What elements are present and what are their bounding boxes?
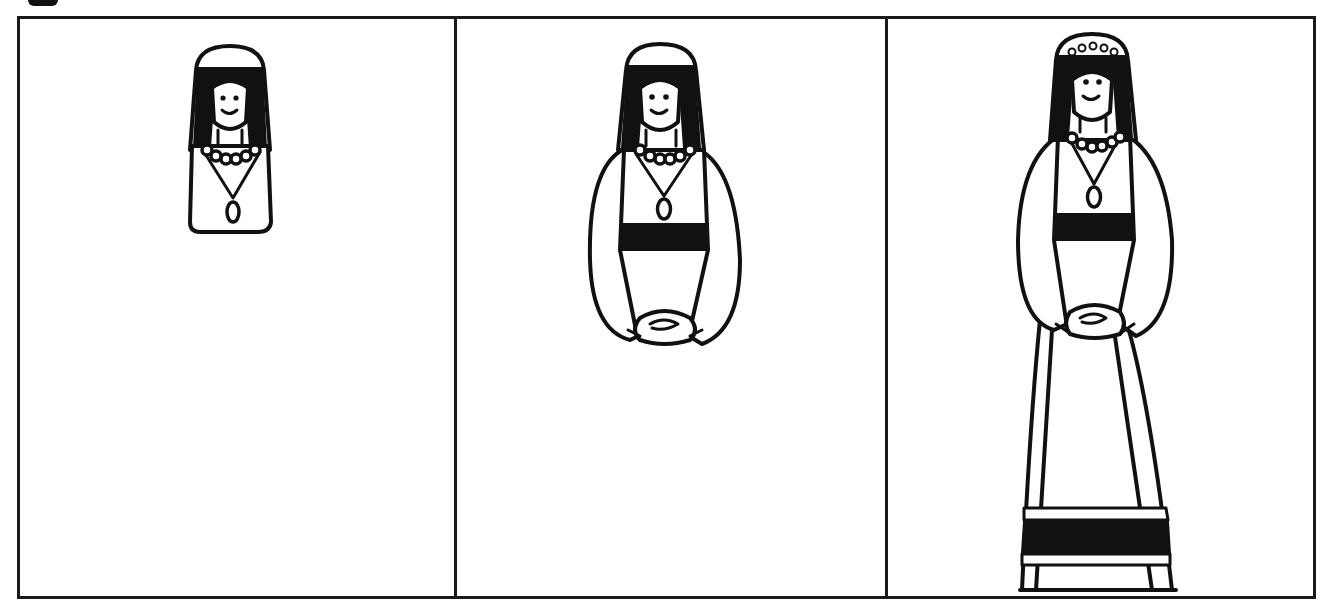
figure-stage-1 <box>20 16 454 599</box>
belt <box>621 224 708 250</box>
panel-2 <box>457 16 885 599</box>
figure-stage-3 <box>888 16 1316 599</box>
belt <box>1054 214 1134 240</box>
drawing-sequence <box>0 0 1332 612</box>
panel-1 <box>20 16 454 599</box>
face <box>212 81 248 129</box>
corner-mark <box>28 0 58 6</box>
figure-stage-2 <box>457 16 885 599</box>
hem-band <box>1022 522 1170 553</box>
panel-3 <box>888 16 1316 599</box>
